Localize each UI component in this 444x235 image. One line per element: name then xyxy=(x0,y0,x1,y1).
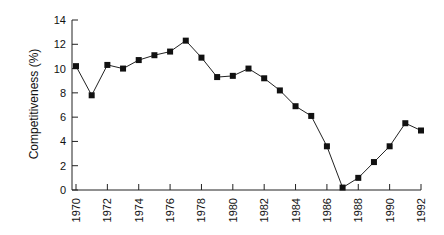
data-point-marker xyxy=(261,75,267,81)
y-tick-label: 0 xyxy=(60,184,66,196)
y-axis-title: Competitiveness (%) xyxy=(27,49,41,160)
data-point-marker xyxy=(183,38,189,44)
x-tick-label: 1980 xyxy=(227,198,239,222)
y-tick-label: 6 xyxy=(60,111,66,123)
y-tick-label: 10 xyxy=(54,63,66,75)
data-point-marker xyxy=(371,159,377,165)
y-tick-label: 4 xyxy=(60,135,66,147)
x-tick-label: 1990 xyxy=(384,198,396,222)
data-point-marker xyxy=(324,143,330,149)
data-point-marker xyxy=(167,49,173,55)
x-tick-label: 1992 xyxy=(415,198,427,222)
x-tick-label: 1974 xyxy=(133,198,145,222)
x-tick-label: 1972 xyxy=(101,198,113,222)
data-point-marker xyxy=(214,74,220,80)
x-axis: 1970197219741976197819801982198419861988… xyxy=(70,184,427,222)
data-point-marker xyxy=(73,63,79,69)
data-point-marker xyxy=(89,92,95,98)
data-point-marker xyxy=(198,55,204,61)
data-point-marker xyxy=(340,185,346,191)
data-point-marker xyxy=(277,87,283,93)
y-axis: 02468101214 xyxy=(54,14,78,196)
x-tick-label: 1982 xyxy=(258,198,270,222)
data-point-marker xyxy=(151,52,157,58)
data-point-marker xyxy=(355,175,361,181)
data-point-marker xyxy=(402,120,408,126)
data-point-marker xyxy=(104,62,110,68)
data-point-marker xyxy=(136,57,142,63)
data-point-marker xyxy=(418,128,424,134)
data-point-marker xyxy=(293,103,299,109)
x-tick-label: 1988 xyxy=(352,198,364,222)
y-tick-label: 2 xyxy=(60,160,66,172)
x-tick-label: 1986 xyxy=(321,198,333,222)
y-tick-label: 8 xyxy=(60,87,66,99)
data-point-marker xyxy=(120,66,126,72)
series-competitiveness xyxy=(73,38,424,191)
line-chart: 02468101214 1970197219741976197819801982… xyxy=(0,0,444,235)
y-tick-label: 12 xyxy=(54,38,66,50)
data-point-marker xyxy=(387,143,393,149)
series-line xyxy=(76,41,421,188)
x-tick-label: 1976 xyxy=(164,198,176,222)
x-tick-label: 1984 xyxy=(290,198,302,222)
x-tick-label: 1970 xyxy=(70,198,82,222)
data-point-marker xyxy=(246,66,252,72)
y-tick-label: 14 xyxy=(54,14,66,26)
data-point-marker xyxy=(308,113,314,119)
data-point-marker xyxy=(230,73,236,79)
x-tick-label: 1978 xyxy=(195,198,207,222)
